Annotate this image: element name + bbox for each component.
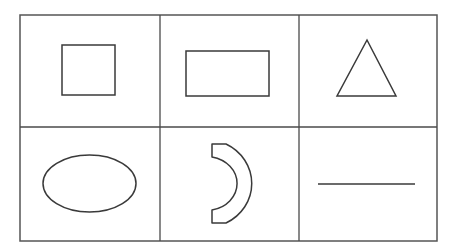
shape-grid-canvas (0, 0, 456, 252)
shape-grid-figure (0, 0, 456, 252)
figure-background (0, 0, 456, 252)
